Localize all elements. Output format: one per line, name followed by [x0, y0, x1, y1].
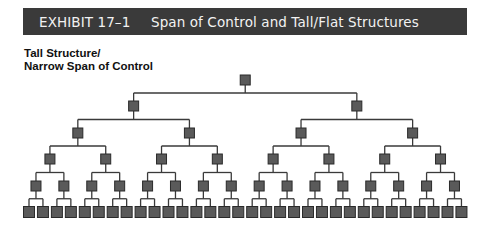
org-node-level-4	[45, 154, 55, 164]
org-node-level-6	[177, 207, 188, 218]
org-node-level-6	[456, 207, 467, 218]
org-node-level-6	[344, 207, 355, 218]
org-node-level-6	[414, 207, 425, 218]
org-node-level-3	[408, 128, 418, 138]
org-node-level-6	[93, 207, 104, 218]
org-node-level-3	[73, 128, 83, 138]
org-node-level-4	[212, 154, 222, 164]
org-node-level-6	[372, 207, 383, 218]
org-node-level-6	[275, 207, 286, 218]
org-node-level-6	[191, 207, 202, 218]
org-node-level-6	[330, 207, 341, 218]
org-node-level-1	[240, 75, 250, 85]
org-node-level-4	[268, 154, 278, 164]
org-node-level-5	[31, 181, 41, 191]
org-node-level-4	[436, 154, 446, 164]
org-node-level-6	[219, 207, 230, 218]
org-node-level-5	[87, 181, 97, 191]
org-node-level-5	[198, 181, 208, 191]
org-node-level-2	[129, 101, 139, 111]
org-node-level-6	[247, 207, 258, 218]
org-node-level-6	[121, 207, 132, 218]
org-node-level-6	[386, 207, 397, 218]
org-node-level-6	[205, 207, 216, 218]
org-node-level-5	[254, 181, 264, 191]
org-node-level-4	[324, 154, 334, 164]
org-node-level-6	[303, 207, 314, 218]
org-node-level-5	[422, 181, 432, 191]
org-node-level-6	[316, 207, 327, 218]
org-node-level-6	[289, 207, 300, 218]
org-node-level-6	[442, 207, 453, 218]
org-node-level-4	[380, 154, 390, 164]
org-node-level-6	[37, 207, 48, 218]
org-node-level-5	[143, 181, 153, 191]
org-node-level-6	[400, 207, 411, 218]
org-node-level-6	[358, 207, 369, 218]
org-chart-tree	[0, 0, 487, 241]
org-node-level-6	[107, 207, 118, 218]
org-node-level-4	[101, 154, 111, 164]
org-node-level-6	[261, 207, 272, 218]
org-node-level-2	[352, 101, 362, 111]
org-node-level-6	[163, 207, 174, 218]
org-node-level-6	[135, 207, 146, 218]
org-node-level-3	[184, 128, 194, 138]
org-node-level-6	[233, 207, 244, 218]
org-node-level-5	[226, 181, 236, 191]
org-node-level-6	[428, 207, 439, 218]
org-node-level-5	[170, 181, 180, 191]
org-node-level-5	[449, 181, 459, 191]
org-node-level-5	[366, 181, 376, 191]
org-node-level-6	[24, 207, 35, 218]
org-node-level-5	[338, 181, 348, 191]
org-node-level-5	[310, 181, 320, 191]
org-node-level-6	[51, 207, 62, 218]
org-node-level-6	[65, 207, 76, 218]
org-node-level-6	[149, 207, 160, 218]
org-node-level-5	[59, 181, 69, 191]
org-node-level-5	[115, 181, 125, 191]
org-node-level-5	[282, 181, 292, 191]
org-node-level-6	[79, 207, 90, 218]
org-node-level-4	[157, 154, 167, 164]
org-node-level-3	[296, 128, 306, 138]
org-node-level-5	[394, 181, 404, 191]
